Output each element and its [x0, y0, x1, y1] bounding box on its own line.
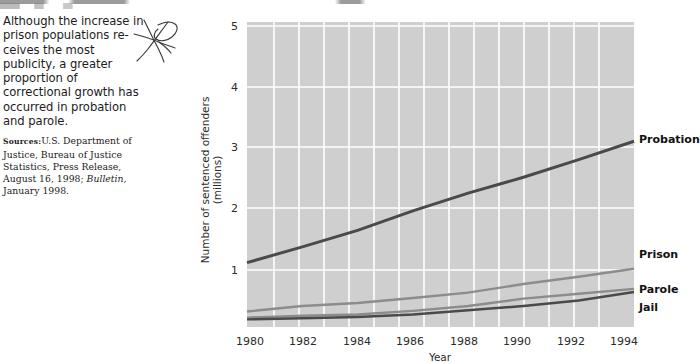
y-tick-2: 2 — [231, 202, 238, 215]
x-tick-1984: 1984 — [343, 335, 371, 348]
figure-page: Although the increase in prison populati… — [0, 0, 700, 364]
y-axis-title: Number of sentenced offenders (millions) — [199, 97, 223, 264]
y-tick-3: 3 — [231, 141, 238, 154]
x-tick-1986: 1986 — [396, 335, 424, 348]
y-tick-1: 1 — [231, 264, 238, 277]
x-axis-title: Year — [428, 351, 452, 363]
x-tick-1990: 1990 — [503, 335, 531, 348]
series-label-probation: Probation — [639, 133, 700, 146]
y-tick-5: 5 — [231, 20, 238, 33]
x-tick-1992: 1992 — [557, 335, 585, 348]
y-axis-title-line2: (millions) — [211, 156, 223, 205]
x-axis-tick-labels: 1980 1982 1984 1986 1988 1990 1992 1994 — [236, 335, 638, 348]
x-tick-1982: 1982 — [289, 335, 317, 348]
x-tick-1988: 1988 — [450, 335, 478, 348]
line-chart: 5 4 3 2 1 Number of sentenced offenders … — [0, 0, 700, 364]
y-tick-4: 4 — [231, 81, 238, 94]
series-end-labels: Probation Prison Parole Jail — [638, 133, 700, 314]
series-label-parole: Parole — [639, 283, 678, 296]
x-tick-1980: 1980 — [236, 335, 264, 348]
y-axis-title-line1: Number of sentenced offenders — [199, 97, 211, 264]
plot-area-background — [247, 22, 634, 327]
x-tick-1994: 1994 — [610, 335, 638, 348]
series-label-jail: Jail — [638, 301, 658, 314]
y-axis-tick-labels: 5 4 3 2 1 — [231, 20, 238, 277]
series-label-prison: Prison — [639, 248, 678, 261]
